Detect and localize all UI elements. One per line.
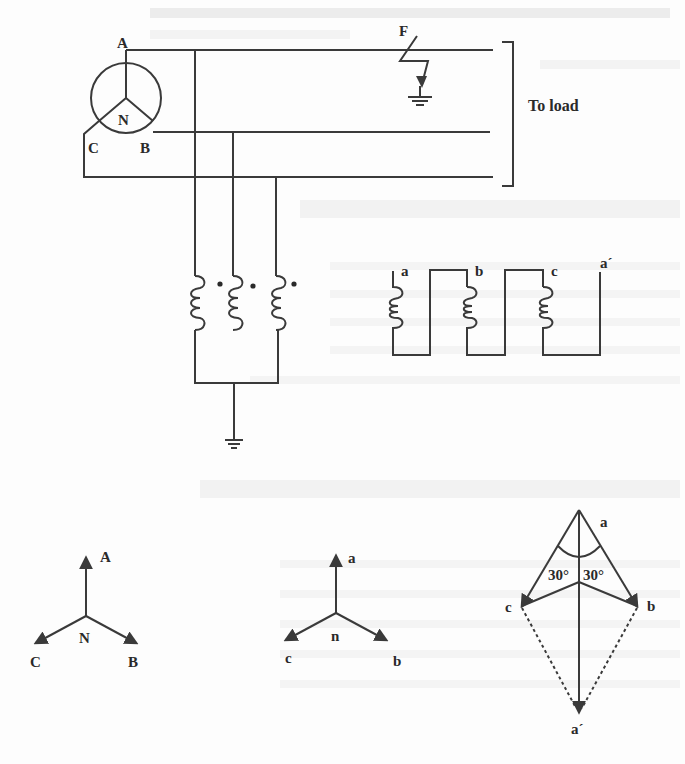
phasor-a-label: a [348, 550, 356, 566]
phasor-N-label: N [79, 630, 90, 646]
phasor-b-label: b [393, 653, 401, 669]
ground-icon [225, 440, 243, 448]
angle-left-label: 30° [548, 567, 569, 583]
terminal-b-label: B [140, 140, 150, 156]
primary-phasor: A B C N [30, 549, 138, 670]
terminal-c-label: C [88, 140, 99, 156]
delta-a-prime-label: a´ [571, 721, 584, 737]
polarity-dot [291, 281, 296, 286]
wye-winding [99, 50, 153, 121]
fault-symbol: F [399, 23, 432, 105]
coil-1 [191, 276, 223, 330]
secondary-a-prime-label: a´ [600, 255, 613, 271]
fault-label: F [399, 23, 408, 39]
terminal-a-label: A [117, 35, 128, 51]
secondary-a-label: a [401, 263, 409, 279]
diagram-canvas: A N C B To load F [0, 0, 685, 764]
delta-b-label: b [647, 598, 655, 614]
polarity-dot [217, 281, 222, 286]
coil-3 [272, 276, 297, 330]
coil-2 [229, 276, 256, 330]
phasor-B-label: B [128, 654, 138, 670]
generator: A N C B [88, 35, 161, 156]
secondary-c-label: c [551, 263, 558, 279]
delta-c-label: c [505, 599, 512, 615]
secondary-b-label: b [475, 263, 483, 279]
angle-right-label: 30° [583, 567, 604, 583]
phasor-A-label: A [100, 549, 111, 565]
phasor-c-label: c [285, 650, 292, 666]
to-load-label: To load [528, 97, 579, 114]
grounding-transformer-primary [191, 50, 297, 448]
phasor-n-label: n [331, 628, 340, 644]
phasor-C-label: C [30, 654, 41, 670]
fault-ground-icon [408, 97, 432, 105]
neutral-label: N [118, 112, 129, 128]
polarity-dot [250, 283, 255, 288]
delta-a-label: a [600, 514, 608, 530]
